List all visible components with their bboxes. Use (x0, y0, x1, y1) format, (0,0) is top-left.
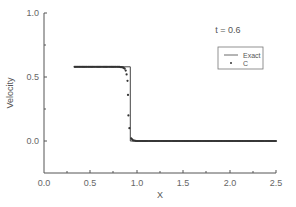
x-axis-title: X (157, 190, 163, 200)
y-tick-label: 0.5 (26, 72, 39, 82)
time-annotation: t = 0.6 (215, 25, 240, 35)
legend-exact-label: Exact (243, 52, 261, 59)
x-tick-labels: 0.0 0.5 1.0 1.5 2.0 2.5 (38, 178, 283, 188)
x-tick-label: 0.5 (84, 178, 97, 188)
x-tick-label: 2.5 (270, 178, 283, 188)
y-tick-label: 1.0 (26, 8, 39, 18)
c-marker (125, 70, 127, 72)
y-tick-label: 0.0 (26, 136, 39, 146)
y-axis-title: Velocity (5, 77, 15, 109)
x-tick-label: 0.0 (38, 178, 51, 188)
c-marker (126, 73, 128, 75)
series-exact (75, 67, 276, 141)
legend: Exact C (218, 47, 263, 69)
x-tick-label: 1.5 (177, 178, 190, 188)
legend-c-marker (230, 62, 232, 64)
c-marker (127, 114, 129, 116)
c-marker (126, 80, 128, 82)
velocity-chart: 1.0 0.5 0.0 0.0 0.5 1.0 1.5 2.0 2.5 X Ve… (0, 0, 296, 207)
c-marker (127, 94, 129, 96)
series-c (74, 66, 278, 142)
y-tick-labels: 1.0 0.5 0.0 (26, 8, 39, 146)
exact-line (75, 67, 276, 141)
x-tick-label: 1.0 (131, 178, 144, 188)
x-tick-label: 2.0 (224, 178, 237, 188)
c-marker (275, 140, 277, 142)
axes (44, 13, 276, 173)
c-marker (128, 127, 130, 129)
c-marker (124, 68, 126, 70)
legend-c-label: C (243, 60, 248, 67)
